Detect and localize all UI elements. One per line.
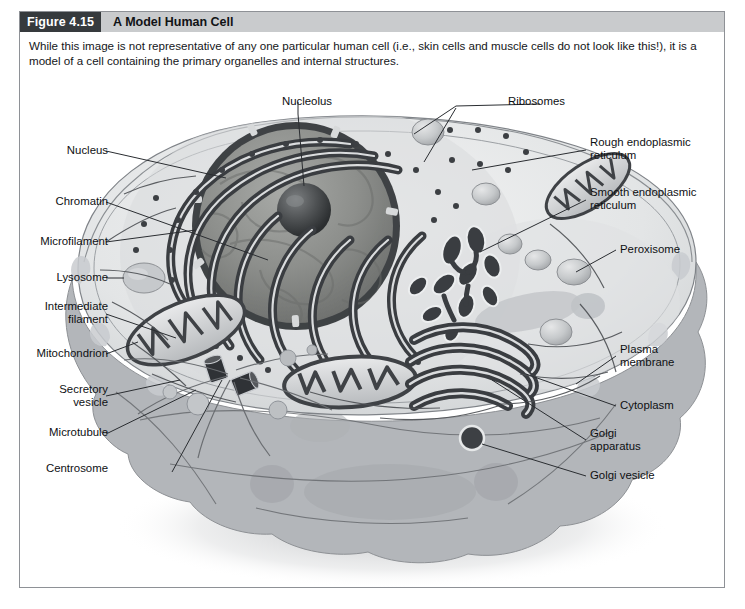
- label-nucleolus: Nucleolus: [282, 95, 392, 108]
- label-smooth-er: Smooth endoplasmic reticulum: [590, 186, 722, 213]
- label-centrosome: Centrosome: [20, 462, 108, 475]
- label-cytoplasm: Cytoplasm: [620, 399, 724, 412]
- lysosome: [123, 263, 165, 293]
- label-golgi-vesicle: Golgi vesicle: [590, 469, 700, 482]
- label-lysosome: Lysosome: [20, 271, 108, 284]
- label-ribosomes: Ribosomes: [508, 95, 618, 108]
- label-microtubule: Microtubule: [20, 426, 108, 439]
- label-nucleus: Nucleus: [20, 144, 108, 157]
- figure-caption: While this image is not representative o…: [29, 39, 713, 68]
- label-chromatin: Chromatin: [20, 195, 108, 208]
- figure-frame: Figure 4.15 A Model Human Cell While thi…: [19, 11, 725, 588]
- label-mitochondrion: Mitochondrion: [20, 347, 108, 360]
- figure-header: Figure 4.15 A Model Human Cell: [20, 12, 724, 32]
- label-golgi-apparatus: Golgi apparatus: [590, 427, 694, 454]
- figure-number: Figure 4.15: [20, 12, 101, 32]
- figure-title: A Model Human Cell: [101, 12, 233, 32]
- label-peroxisome: Peroxisome: [620, 243, 724, 256]
- golgi-vesicle: [460, 426, 484, 450]
- nucleolus: [277, 183, 331, 237]
- label-plasma-membrane: Plasma membrane: [620, 343, 724, 370]
- label-rough-er: Rough endoplasmic reticulum: [590, 136, 722, 163]
- label-intermediate-filament: Intermediate filament: [20, 300, 108, 327]
- label-secretory-vesicle: Secretory vesicle: [20, 383, 108, 410]
- label-microfilament: Microfilament: [20, 235, 108, 248]
